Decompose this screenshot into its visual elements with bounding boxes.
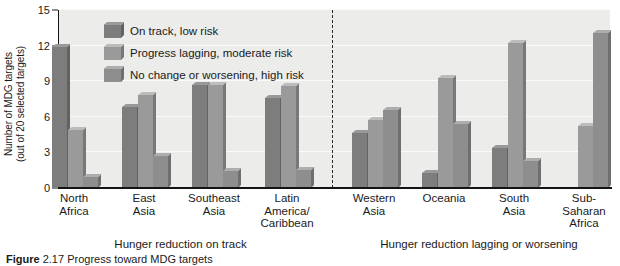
bar [368, 120, 383, 188]
bar [438, 78, 453, 188]
x-axis-label-line: Western [353, 192, 396, 205]
bar-face [153, 156, 168, 188]
legend: On track, low riskProgress lagging, mode… [104, 21, 354, 87]
bar-face [593, 33, 608, 188]
x-axis-label-line: East [132, 192, 155, 205]
bar-face [492, 148, 507, 188]
x-axis-label-line: Saharan [562, 205, 605, 218]
bar [593, 33, 608, 188]
bar-face [578, 126, 593, 188]
legend-swatch [104, 47, 121, 60]
bar [122, 107, 137, 188]
legend-item: On track, low risk [104, 21, 354, 41]
x-axis-label: NorthAfrica [59, 192, 88, 217]
legend-swatch-face [104, 69, 121, 82]
bar [192, 85, 207, 188]
bar-face [281, 86, 296, 188]
legend-item: Progress lagging, moderate risk [104, 43, 354, 63]
x-axis-label-line: Southeast [188, 192, 240, 205]
legend-swatch-face [104, 47, 121, 60]
bar-top [68, 127, 87, 130]
legend-label: No change or worsening, high risk [130, 69, 304, 82]
bar-face [223, 171, 238, 188]
bar [68, 130, 83, 188]
y-axis-tick-label: 12 [30, 40, 50, 51]
x-axis-label-line: Asia [353, 205, 396, 218]
y-axis-title-line2: (out of 20 selected targets) [15, 46, 27, 162]
bar [265, 98, 280, 188]
y-axis-tick-label: 15 [30, 5, 50, 16]
x-axis-line [58, 187, 612, 189]
bar-top [438, 75, 457, 78]
x-axis-label-line: Asia [132, 205, 155, 218]
legend-swatch-top [104, 66, 124, 69]
y-axis-title: Number of MDG targets (out of 20 selecte… [0, 18, 30, 190]
legend-swatch-side [121, 44, 124, 60]
legend-label: Progress lagging, moderate risk [130, 47, 292, 60]
x-axis-label: Sub-SaharanAfrica [562, 192, 605, 230]
section-caption: Hunger reduction on track [114, 238, 246, 251]
bar [352, 133, 367, 188]
bar [453, 124, 468, 188]
x-axis-label: SouthAsia [499, 192, 529, 217]
gridline [59, 9, 610, 10]
bar-face [52, 47, 67, 188]
y-axis-tick-label: 6 [30, 111, 50, 122]
bar-top [593, 30, 612, 33]
legend-swatch-side [121, 66, 124, 82]
x-axis-label-line: Sub- [562, 192, 605, 205]
x-axis-label-line: America/ [260, 205, 313, 218]
bar [52, 47, 67, 188]
bar [523, 161, 538, 188]
section-caption: Hunger reduction lagging or worsening [380, 238, 578, 251]
bar [296, 170, 311, 188]
bar-side [238, 168, 241, 188]
y-axis-tick-label: 0 [30, 183, 50, 194]
bar [578, 126, 593, 188]
bar [208, 85, 223, 188]
bar-face [192, 85, 207, 188]
legend-swatch-top [104, 22, 124, 25]
legend-swatch-face [104, 25, 121, 38]
x-axis-label: LatinAmerica/Caribbean [260, 192, 313, 230]
x-axis-label: WesternAsia [353, 192, 396, 217]
x-axis-label: EastAsia [132, 192, 155, 217]
bar-side [468, 121, 471, 188]
figure-caption-text: 2.17 Progress toward MDG targets [43, 253, 213, 265]
x-axis-label-line: Latin [260, 192, 313, 205]
bar [508, 43, 523, 188]
legend-item: No change or worsening, high risk [104, 65, 354, 85]
x-axis-label-line: Asia [499, 205, 529, 218]
bar-face [508, 43, 523, 188]
legend-swatch [104, 69, 121, 82]
bar-face [438, 78, 453, 188]
x-axis-label-line: Africa [562, 217, 605, 230]
bar [383, 110, 398, 188]
bar-face [208, 85, 223, 188]
bar-face [453, 124, 468, 188]
bar-side [608, 30, 611, 188]
bar [138, 95, 153, 188]
x-axis-label-line: Africa [59, 205, 88, 218]
bar-face [523, 161, 538, 188]
legend-label: On track, low risk [130, 25, 218, 38]
bar-face [368, 120, 383, 188]
y-axis-title-line1: Number of MDG targets [3, 46, 15, 162]
bar [422, 173, 437, 188]
figure-caption: Figure 2.17 Progress toward MDG targets [6, 253, 213, 266]
x-axis-label: Oceania [423, 192, 466, 205]
bar-side [538, 158, 541, 188]
bar [281, 86, 296, 188]
x-axis-label-line: Caribbean [260, 217, 313, 230]
bar-side [168, 153, 171, 188]
x-axis-label-line: Asia [188, 205, 240, 218]
bar [153, 156, 168, 188]
bar-face [265, 98, 280, 188]
bar-face [422, 173, 437, 188]
legend-swatch-side [121, 22, 124, 38]
bar [492, 148, 507, 188]
x-axis-label-line: North [59, 192, 88, 205]
bar-face [352, 133, 367, 188]
x-axis-label: SoutheastAsia [188, 192, 240, 217]
